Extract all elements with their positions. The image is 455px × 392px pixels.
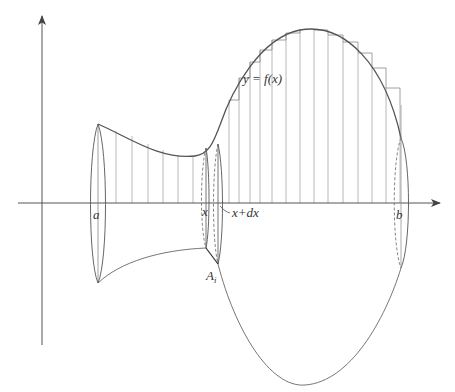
- label-area-subscript: i: [214, 275, 217, 285]
- curve-label: y = f(x): [241, 71, 282, 86]
- mirror-curve: [98, 248, 206, 283]
- label-x-plus-dx: x+dx: [231, 205, 259, 220]
- strip-tops: [229, 29, 400, 105]
- label-x: x: [201, 204, 208, 219]
- function-curve: [98, 29, 401, 156]
- mirror-curve-lower: [218, 264, 401, 385]
- cross-section-b: [394, 105, 408, 268]
- label-area: Ai: [205, 268, 217, 285]
- x-plus-dx-leader: [220, 206, 230, 213]
- approximation-strips: [116, 29, 400, 203]
- label-area-main: A: [205, 268, 214, 283]
- label-b: b: [396, 207, 403, 222]
- label-a: a: [93, 207, 100, 222]
- solid-of-revolution-diagram: y = f(x) a b x x+dx Ai: [0, 0, 455, 392]
